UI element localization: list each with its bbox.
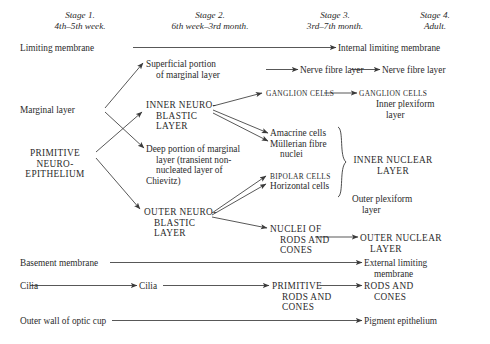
outer-plexiform-line1: Outer plexiform — [352, 194, 462, 205]
node-outer-plexiform-layer: Outer plexiform layer — [352, 194, 462, 215]
node-pigment-epithelium: Pigment epithelium — [364, 316, 437, 326]
stage-3-subtitle: 3rd–7th month. — [280, 21, 390, 32]
primitive-rods-line3: cones — [272, 302, 352, 313]
outer-neuroblastic-line2: blastic layer — [144, 218, 224, 239]
outer-neuroblastic-line1: Outer neuro- — [144, 207, 224, 218]
node-nerve-fibre-layer-stage3: Nerve fibre layer — [300, 65, 364, 75]
external-limiting-line1: External limiting — [364, 258, 484, 269]
node-limiting-membrane: Limiting membrane — [20, 43, 94, 53]
rods-and-cones-line1: Rods and — [364, 281, 444, 292]
wire-primitive-to-inner — [96, 112, 142, 152]
brace-inner-nuclear-layer — [336, 126, 350, 198]
external-limiting-line2: membrane — [364, 269, 484, 280]
header-stage-3: Stage 3. 3rd–7th month. — [280, 10, 390, 32]
header-stage-1: Stage 1. 4th–5th week. — [20, 10, 140, 32]
primitive-neuroepithelium-line1: Primitive neuro- — [14, 148, 96, 169]
rods-and-cones-line2: cones — [364, 292, 444, 303]
stage-4-subtitle: Adult. — [385, 21, 485, 32]
mullerian-fibre-line1: Müllerian fibre — [270, 139, 370, 150]
deep-portion-line2: layer (transient non- — [146, 155, 266, 166]
outer-plexiform-line2: layer — [352, 205, 462, 216]
primitive-neuroepithelium-line2: epithelium — [14, 169, 96, 180]
stage-2-title: Stage 2. — [195, 10, 225, 20]
inner-plexiform-line2: layer — [376, 110, 486, 121]
header-stage-2: Stage 2. 6th week–3rd month. — [140, 10, 280, 32]
inner-neuroblastic-line2: blastic layer — [146, 111, 226, 132]
stage-4-title: Stage 4. — [420, 10, 450, 20]
deep-portion-line4: Chievitz) — [146, 176, 266, 187]
wire-primitive-to-outer — [96, 158, 140, 209]
stage-1-title: Stage 1. — [65, 10, 95, 20]
node-horizontal-cells: Horizontal cells — [270, 181, 329, 191]
nuclei-rods-cones-line3: cones — [270, 245, 350, 256]
node-ganglion-cells-stage3: Ganglion cells — [266, 89, 334, 99]
outer-nuclear-line1: Outer nuclear — [360, 233, 450, 244]
node-primitive-neuroepithelium: Primitive neuro- epithelium — [14, 148, 96, 180]
node-primitive-rods-and-cones: Primitive rods and cones — [272, 281, 352, 313]
stage-1-subtitle: 4th–5th week. — [20, 21, 140, 32]
primitive-rods-line2: rods and — [272, 292, 352, 303]
inner-neuroblastic-line1: Inner neuro- — [146, 100, 226, 111]
superficial-portion-line2: of marginal layer — [146, 70, 266, 81]
node-deep-portion-marginal-layer: Deep portion of marginal layer (transien… — [146, 144, 266, 186]
primitive-rods-line1: Primitive — [272, 281, 352, 292]
node-rods-and-cones: Rods and cones — [364, 281, 444, 302]
node-cilia-stage2: Cilia — [139, 281, 157, 291]
node-nuclei-of-rods-and-cones: Nuclei of rods and cones — [270, 224, 350, 256]
nuclei-rods-cones-line2: rods and — [270, 235, 350, 246]
nuclei-rods-cones-line1: Nuclei of — [270, 224, 350, 235]
amacrine-cells-label: Amacrine cells — [270, 128, 370, 139]
outer-nuclear-line2: layer — [360, 244, 450, 255]
node-outer-wall-of-optic-cup: Outer wall of optic cup — [20, 316, 106, 326]
node-inner-plexiform-layer: Inner plexiform layer — [376, 99, 486, 120]
node-cilia-stage1: Cilia — [20, 281, 38, 291]
figure-canvas: Stage 1. 4th–5th week. Stage 2. 6th week… — [0, 0, 490, 344]
stage-3-title: Stage 3. — [320, 10, 350, 20]
wire-marginal-to-deep — [105, 112, 144, 148]
node-marginal-layer: Marginal layer — [20, 105, 75, 115]
node-nerve-fibre-layer-stage4: Nerve fibre layer — [382, 65, 446, 75]
node-inner-neuroblastic-layer: Inner neuro- blastic layer — [146, 100, 226, 132]
header-stage-4: Stage 4. Adult. — [385, 10, 485, 32]
superficial-portion-line1: Superficial portion — [146, 59, 266, 70]
deep-portion-line1: Deep portion of marginal — [146, 144, 266, 155]
node-external-limiting-membrane: External limiting membrane — [364, 258, 484, 279]
inner-nuclear-line2: layer — [350, 166, 436, 177]
node-internal-limiting-membrane: Internal limiting membrane — [338, 43, 440, 53]
node-outer-neuroblastic-layer: Outer neuro- blastic layer — [144, 207, 224, 239]
deep-portion-line3: nucleated layer of — [146, 165, 266, 176]
node-ganglion-cells-stage4: Ganglion cells — [359, 89, 427, 99]
node-superficial-portion-marginal-layer: Superficial portion of marginal layer — [146, 59, 266, 80]
inner-plexiform-line1: Inner plexiform — [376, 99, 486, 110]
node-outer-nuclear-layer: Outer nuclear layer — [360, 233, 450, 254]
node-basement-membrane: Basement membrane — [20, 258, 98, 268]
node-inner-nuclear-layer: Inner nuclear layer — [350, 155, 436, 176]
wire-marginal-to-superficial — [105, 63, 143, 108]
stage-2-subtitle: 6th week–3rd month. — [140, 21, 280, 32]
inner-nuclear-line1: Inner nuclear — [350, 155, 436, 166]
